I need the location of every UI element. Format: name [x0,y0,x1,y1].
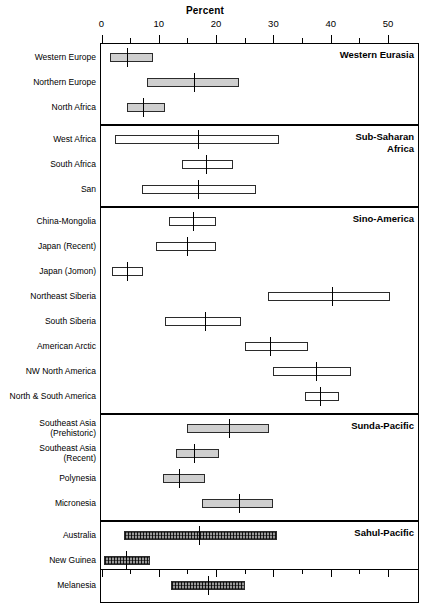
row-label: Western Europe [0,52,96,62]
row-label: Northeast Siberia [0,291,96,301]
row-label: South Siberia [0,316,96,326]
row-label: North & South America [0,391,96,401]
mean-marker [316,362,317,381]
mean-marker [143,98,144,117]
range-bar [182,160,234,169]
x-tick-label-40: 40 [316,18,346,29]
axis-tick-major-10 [159,35,160,43]
panel-sino-america [100,207,419,414]
x-tick-label-30: 30 [258,18,288,29]
mean-marker [229,419,230,438]
axis-tick-major-50 [388,35,389,43]
mean-marker [320,387,321,406]
mean-marker [198,130,199,149]
range-bar [176,449,219,458]
range-bar [163,474,204,483]
row-label: South Africa [0,159,96,169]
axis-tick-major-40 [331,35,332,43]
x-tick-label-0: 0 [87,18,117,29]
x-axis-title: Percent [165,5,245,16]
row-label: Japan (Jomon) [0,266,96,276]
range-bar [245,342,308,351]
row-label: North Africa [0,102,96,112]
row-label: China-Mongolia [0,216,96,226]
range-bar [273,367,350,376]
mean-marker [127,48,128,67]
mean-marker [187,237,188,256]
mean-marker [194,444,195,463]
row-label: Southeast Asia(Recent) [0,443,96,463]
mean-marker [332,287,333,306]
mean-marker [205,312,206,331]
range-bar [165,317,242,326]
panel-title: Sahul-Pacific [294,527,414,539]
x-tick-label-50: 50 [373,18,403,29]
row-label: Australia [0,530,96,540]
x-tick-label-10: 10 [144,18,174,29]
row-label: Micronesia [0,498,96,508]
range-bar [202,499,274,508]
range-bar [110,53,153,62]
mean-marker [239,494,240,513]
range-bar [268,292,390,301]
x-tick-label-20: 20 [201,18,231,29]
axis-tick-major-20 [216,35,217,43]
row-label: San [0,184,96,194]
panel-title: Sub-SaharanAfrica [294,131,414,154]
row-label: New Guinea [0,555,96,565]
mean-marker [199,526,200,545]
range-bar [305,392,339,401]
panel-title: Sino-America [294,213,414,225]
row-label: Melanesia [0,580,96,590]
axis-tick-major-30 [273,35,274,43]
row-label: Northern Europe [0,77,96,87]
mean-marker [193,212,194,231]
mean-marker [198,180,199,199]
mean-marker [206,155,207,174]
mean-marker [270,337,271,356]
row-label: Japan (Recent) [0,241,96,251]
row-label: Polynesia [0,473,96,483]
range-bar [127,103,164,112]
mean-marker [179,469,180,488]
mean-marker [194,73,195,92]
axis-tick-major-0 [102,35,103,43]
mean-marker [208,576,209,595]
row-label: American Arctic [0,341,96,351]
row-label: Southeast Asia(Prehistoric) [0,418,96,438]
row-label: NW North America [0,366,96,376]
row-label: West Africa [0,134,96,144]
range-bar [156,242,216,251]
panel-title: Western Eurasia [294,49,414,61]
mean-marker [126,551,127,570]
mean-marker [127,262,128,281]
range-bar [124,531,276,540]
panel-title: Sunda-Pacific [294,420,414,432]
